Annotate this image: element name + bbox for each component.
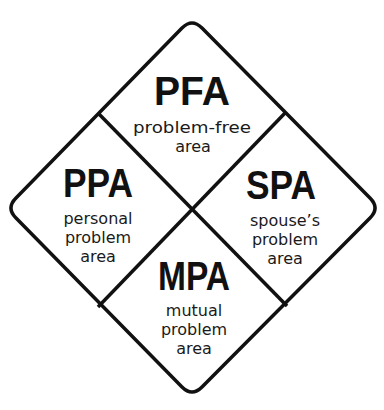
quadrant-spa-desc-line-1: spouse’s	[250, 211, 320, 230]
quadrant-ppa-desc-line-2: problem	[65, 228, 131, 247]
quadrant-pfa: PFA problem-free area	[133, 68, 251, 156]
quadrant-spa: SPA spouse’s problem area	[246, 162, 320, 268]
quadrant-spa-desc-line-2: problem	[252, 230, 318, 249]
quadrant-ppa-desc-line-3: area	[80, 247, 116, 266]
quadrant-ppa-abbr: PPA	[63, 160, 133, 206]
quadrant-mpa: MPA mutual problem area	[158, 253, 230, 358]
quadrant-pfa-desc-line-2: area	[175, 137, 211, 156]
quadrant-spa-abbr: SPA	[246, 162, 316, 208]
quadrant-spa-desc-line-3: area	[267, 249, 303, 268]
quadrant-mpa-desc-line-3: area	[176, 339, 212, 358]
problem-area-diamond-diagram: PFA problem-free area PPA personal probl…	[0, 0, 384, 410]
quadrant-ppa: PPA personal problem area	[63, 160, 133, 266]
quadrant-pfa-abbr: PFA	[154, 68, 230, 114]
quadrant-mpa-abbr: MPA	[158, 253, 230, 299]
quadrant-mpa-desc-line-2: problem	[161, 320, 227, 339]
quadrant-mpa-desc-line-1: mutual	[166, 301, 222, 320]
quadrant-ppa-desc-line-1: personal	[63, 209, 132, 228]
quadrant-pfa-desc-line-1: problem-free	[133, 118, 251, 137]
